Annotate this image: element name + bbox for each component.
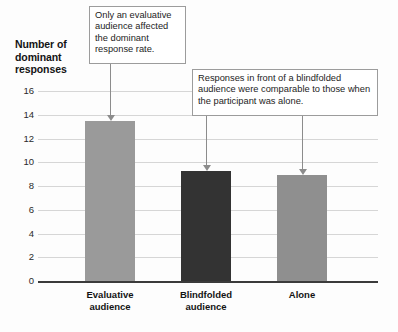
y-axis-tick-label: 4 — [10, 228, 34, 239]
y-axis-title-line-2: dominant — [15, 51, 61, 63]
x-label-line-1: Blindfolded — [180, 289, 232, 300]
bar-blindfolded-audience — [181, 171, 231, 281]
y-axis-title-line-1: Number of — [15, 38, 67, 50]
y-axis-tick-label: 10 — [10, 156, 34, 167]
bar-evaluative-audience — [85, 121, 135, 281]
y-axis-title: Number of dominant responses — [15, 38, 99, 76]
annotation-leader-line — [302, 116, 303, 169]
y-axis-tick-label: 0 — [10, 275, 34, 286]
annotation-arrowhead — [203, 165, 211, 171]
y-axis-tick-label: 2 — [10, 251, 34, 262]
annotation-arrowhead — [299, 169, 307, 175]
bar-alone — [277, 175, 327, 281]
x-label-line-2: audience — [89, 301, 130, 312]
x-axis-baseline — [38, 281, 378, 283]
annotation-arrowhead — [107, 115, 115, 121]
annotation-leader-line — [110, 64, 111, 115]
y-axis-tick-label: 16 — [10, 85, 34, 96]
y-axis-tick-label: 14 — [10, 109, 34, 120]
y-axis-tick-label: 8 — [10, 180, 34, 191]
x-axis-category-label: Alone — [254, 289, 350, 301]
x-label-line-2: audience — [185, 301, 226, 312]
x-axis-category-label: Evaluativeaudience — [62, 289, 158, 312]
x-label-line-1: Alone — [289, 289, 315, 300]
annotation-callout-blindfolded-alone: Responses in front of a blindfolded audi… — [192, 69, 378, 116]
y-axis-tick-labels: 0246810121416 — [6, 91, 34, 283]
annotation-leader-line — [206, 116, 207, 165]
y-axis-tick-label: 6 — [10, 204, 34, 215]
plot-area — [38, 91, 378, 281]
bar-chart-figure: Number of dominant responses 02468101214… — [0, 0, 398, 332]
y-axis-tick-label: 12 — [10, 133, 34, 144]
y-axis-title-line-3: responses — [15, 63, 67, 75]
annotation-callout-evaluative: Only an evaluative audience affected the… — [89, 6, 186, 64]
x-axis-category-label: Blindfoldedaudience — [158, 289, 254, 312]
x-label-line-1: Evaluative — [87, 289, 134, 300]
